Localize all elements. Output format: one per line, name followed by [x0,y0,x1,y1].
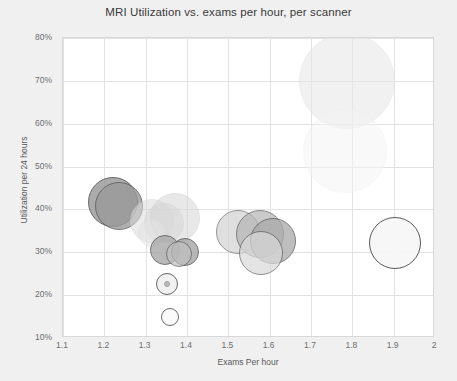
y-tick-label: 50% [35,161,52,171]
bubble-series [63,38,433,336]
x-tick-label: 2 [432,340,437,350]
x-tick-label: 1.6 [263,340,275,350]
y-axis: 10%20%30%40%50%60%70%80% [0,37,58,337]
y-tick-label: 70% [35,75,52,85]
x-tick-label: 1.8 [345,340,357,350]
bubble-point [369,217,421,269]
plot-area [62,37,434,337]
x-tick-label: 1.7 [304,340,316,350]
y-axis-title: Utilization per 24 hours [19,110,29,250]
y-tick-label: 20% [35,289,52,299]
x-tick-label: 1.1 [56,340,68,350]
x-tick-label: 1.3 [139,340,151,350]
bubble-point [166,241,192,267]
bubble-chart: MRI Utilization vs. exams per hour, per … [0,0,457,381]
bubble-point [239,231,283,275]
x-tick-label: 1.9 [387,340,399,350]
x-tick-label: 1.2 [97,340,109,350]
bubble-point [303,109,387,193]
x-tick-label: 1.5 [221,340,233,350]
y-tick-label: 30% [35,246,52,256]
chart-title: MRI Utilization vs. exams per hour, per … [0,6,457,18]
bubble-point [161,308,179,326]
x-axis-title: Exams Per hour [62,357,434,367]
y-tick-label: 80% [35,32,52,42]
y-tick-label: 40% [35,203,52,213]
y-tick-label: 60% [35,118,52,128]
y-tick-label: 10% [35,332,52,342]
x-tick-label: 1.4 [180,340,192,350]
